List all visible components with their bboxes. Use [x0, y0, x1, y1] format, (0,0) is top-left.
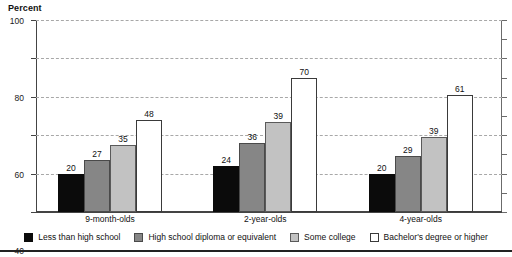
bar-value-label: 39 — [274, 111, 283, 121]
bar-value-label: 24 — [222, 155, 231, 165]
right-axis-minor-tick — [502, 116, 507, 117]
bar: 39 — [265, 122, 291, 212]
legend-label: Less than high school — [38, 232, 120, 242]
legend-item: High school diploma or equivalent — [134, 232, 276, 242]
right-axis-tick — [502, 58, 507, 59]
legend-item: Less than high school — [24, 232, 120, 242]
bar-value-label: 48 — [144, 109, 153, 119]
y-axis-tick: 60 — [31, 97, 36, 98]
bar-value-label: 20 — [377, 163, 386, 173]
bar: 70 — [291, 78, 317, 212]
y-axis-tick: 20 — [31, 174, 36, 175]
y-axis-tick: 0 — [31, 212, 36, 213]
y-axis-tick: 100 — [31, 20, 36, 21]
bar-value-label: 20 — [66, 163, 75, 173]
y-axis-tick-label: 60 — [15, 170, 24, 180]
bar-chart: Percent 020406080100 2027354824363970202… — [0, 0, 512, 257]
legend-swatch — [290, 233, 299, 242]
legend-label: Some college — [304, 232, 356, 242]
right-axis-minor-tick — [502, 154, 507, 155]
x-axis-category-label: 2-year-olds — [244, 214, 287, 224]
y-axis-title: Percent — [8, 3, 42, 13]
legend-item: Some college — [290, 232, 356, 242]
y-axis-tick-label: 100 — [10, 16, 24, 26]
bar: 61 — [447, 95, 473, 212]
legend-swatch — [134, 233, 143, 242]
bar-value-label: 70 — [300, 67, 309, 77]
right-axis-tick — [502, 212, 507, 213]
right-axis-tick — [502, 135, 507, 136]
bar: 39 — [421, 137, 447, 212]
gridline — [36, 97, 502, 98]
y-axis-tick: 40 — [31, 135, 36, 136]
right-axis-minor-tick — [502, 78, 507, 79]
right-axis-tick — [502, 174, 507, 175]
y-axis-tick-label: 80 — [15, 93, 24, 103]
right-axis-minor-tick — [502, 193, 507, 194]
right-axis-tick — [502, 97, 507, 98]
y-axis-tick: 80 — [31, 58, 36, 59]
bar: 48 — [136, 120, 162, 212]
bar: 27 — [84, 160, 110, 212]
bar-value-label: 36 — [248, 132, 257, 142]
bar: 29 — [395, 156, 421, 212]
bar: 20 — [58, 174, 84, 212]
bar: 35 — [110, 145, 136, 212]
legend-swatch — [370, 233, 379, 242]
y-axis-line — [36, 20, 37, 212]
gridline — [36, 58, 502, 59]
right-axis-tick — [502, 20, 507, 21]
plot-area: 020406080100 202735482436397020293961 — [36, 20, 502, 212]
bar-value-label: 39 — [429, 126, 438, 136]
bar-value-label: 35 — [118, 134, 127, 144]
legend-label: High school diploma or equivalent — [148, 232, 276, 242]
legend-item: Bachelor's degree or higher — [370, 232, 488, 242]
right-axis-minor-tick — [502, 39, 507, 40]
bar-value-label: 29 — [403, 145, 412, 155]
legend-swatch — [24, 233, 33, 242]
gridline — [36, 212, 502, 213]
bar-value-label: 27 — [92, 149, 101, 159]
bottom-divider — [0, 250, 512, 252]
legend-label: Bachelor's degree or higher — [384, 232, 488, 242]
x-axis-category-label: 4-year-olds — [399, 214, 442, 224]
bar: 36 — [239, 143, 265, 212]
chart-legend: Less than high schoolHigh school diploma… — [0, 232, 512, 242]
gridline — [36, 20, 502, 21]
bar: 24 — [213, 166, 239, 212]
x-axis-category-label: 9-month-olds — [85, 214, 135, 224]
bar-value-label: 61 — [455, 84, 464, 94]
bar: 20 — [369, 174, 395, 212]
